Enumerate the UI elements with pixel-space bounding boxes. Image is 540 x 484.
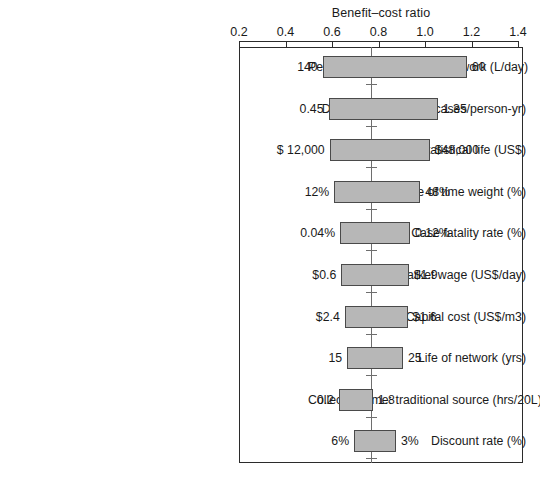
baseline-center-tick [366, 334, 377, 335]
bar-high-value-label: 48% [420, 172, 450, 212]
tornado-row: Value of time weight (%)12%48% [0, 172, 540, 212]
bar-low-value-label: $2.4 [316, 297, 345, 337]
tornado-bar[interactable] [341, 264, 408, 286]
tornado-bar[interactable] [323, 56, 467, 78]
tornado-row: Case fatality rate (%)0.04%0.12% [0, 213, 540, 253]
bar-high-value-label: 1.35 [438, 89, 467, 129]
tornado-row: Unskilled market wage (US$/day)$0.6$1.9 [0, 255, 540, 295]
bar-high-value-label: $1.9 [409, 255, 438, 295]
bar-low-value-label: 0.2 [317, 380, 339, 420]
bar-high-value-label: $1.6 [408, 297, 437, 337]
baseline-center-tick [366, 292, 377, 293]
bar-low-value-label: 15 [328, 338, 347, 378]
tornado-diagram-figure: Benefit–cost ratio 0.20.40.60.81.01.21.4… [0, 0, 540, 484]
chart-title: Benefit–cost ratio [239, 6, 523, 20]
baseline-center-tick [366, 458, 377, 459]
baseline-center-tick [366, 84, 377, 85]
x-tick-label: 0.8 [370, 25, 387, 39]
tornado-bar[interactable] [345, 306, 408, 328]
bar-high-value-label: $48,000 [430, 130, 479, 170]
tornado-row: Diarrheal incidence (cases/person-yr)0.4… [0, 89, 540, 129]
x-axis-spine [239, 41, 518, 42]
tornado-bar[interactable] [334, 181, 420, 203]
tornado-bar[interactable] [347, 347, 403, 369]
bar-high-value-label: 25 [403, 338, 422, 378]
bar-low-value-label: $0.6 [312, 255, 341, 295]
bar-high-value-label: 0.12% [410, 213, 450, 253]
x-tick-label: 0.2 [230, 25, 247, 39]
tornado-row: Life of network (yrs)1525 [0, 338, 540, 378]
tornado-bar[interactable] [330, 139, 430, 161]
bar-high-value-label: 60 [467, 47, 486, 87]
x-tick-label: 1.0 [416, 25, 433, 39]
x-tick-label: 0.4 [277, 25, 294, 39]
bar-low-value-label: 0.04% [300, 213, 340, 253]
baseline-center-tick [366, 167, 377, 168]
tornado-row: Value of a statistical life (US$)$ 12,00… [0, 130, 540, 170]
tornado-bar[interactable] [339, 389, 373, 411]
bar-low-value-label: 0.45 [300, 89, 329, 129]
baseline-center-tick [366, 126, 377, 127]
bar-high-value-label: 3% [396, 421, 419, 461]
bar-low-value-label: 140 [297, 47, 323, 87]
x-tick-label: 0.6 [323, 25, 340, 39]
tornado-bar[interactable] [354, 430, 396, 452]
bar-low-value-label: $ 12,000 [277, 130, 330, 170]
bar-high-value-label: 1.8 [373, 380, 395, 420]
baseline-center-tick [366, 209, 377, 210]
tornado-bar[interactable] [340, 222, 410, 244]
baseline-center-tick [366, 375, 377, 376]
x-tick-label: 1.2 [463, 25, 480, 39]
tornado-bar[interactable] [329, 98, 438, 120]
tornado-row: Discount rate (%)6%3% [0, 421, 540, 461]
tornado-row: Capital cost (US$/m3)$2.4$1.6 [0, 297, 540, 337]
tornado-row: Per capita consumption–network (L/day)14… [0, 47, 540, 87]
bar-low-value-label: 12% [305, 172, 335, 212]
baseline-center-tick [366, 417, 377, 418]
x-tick-label: 1.4 [509, 25, 526, 39]
bar-low-value-label: 6% [331, 421, 354, 461]
baseline-center-tick [366, 250, 377, 251]
tornado-row: Collection time: traditional source (hrs… [0, 380, 540, 420]
